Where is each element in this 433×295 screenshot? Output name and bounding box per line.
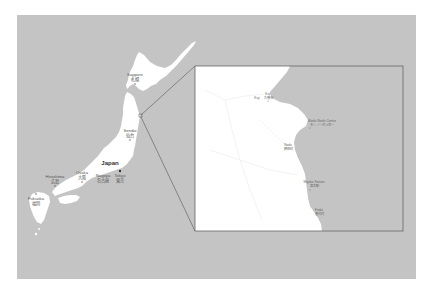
svg-text:野田村: 野田村	[284, 146, 294, 151]
svg-text:宮古駅: 宮古駅	[310, 183, 320, 188]
svg-text:普代村: 普代村	[315, 211, 325, 216]
svg-text:札幌: 札幌	[131, 76, 140, 83]
inset-label-kuji-small: Kuji	[254, 96, 260, 100]
svg-text:モシノシセンター: モシノシセンター	[310, 122, 334, 127]
svg-text:大阪: 大阪	[78, 174, 87, 181]
country-label-japan: Japan	[101, 160, 119, 166]
city-nagoya: Nagoya 名古屋	[96, 173, 111, 184]
inset-map	[195, 66, 403, 231]
island	[35, 233, 37, 235]
svg-text:Kuji: Kuji	[254, 96, 260, 100]
svg-text:仙台: 仙台	[126, 132, 134, 139]
svg-text:広島: 広島	[51, 178, 59, 185]
svg-text:福岡: 福岡	[32, 200, 40, 207]
map-figure: Sapporo 札幌 Sendai 仙台 Japan Tokyo 東京 Nago…	[0, 0, 433, 295]
svg-text:東京: 東京	[116, 177, 124, 184]
svg-text:久慈市: 久慈市	[264, 95, 274, 100]
svg-text:名古屋: 名古屋	[97, 177, 109, 184]
island	[38, 228, 40, 230]
